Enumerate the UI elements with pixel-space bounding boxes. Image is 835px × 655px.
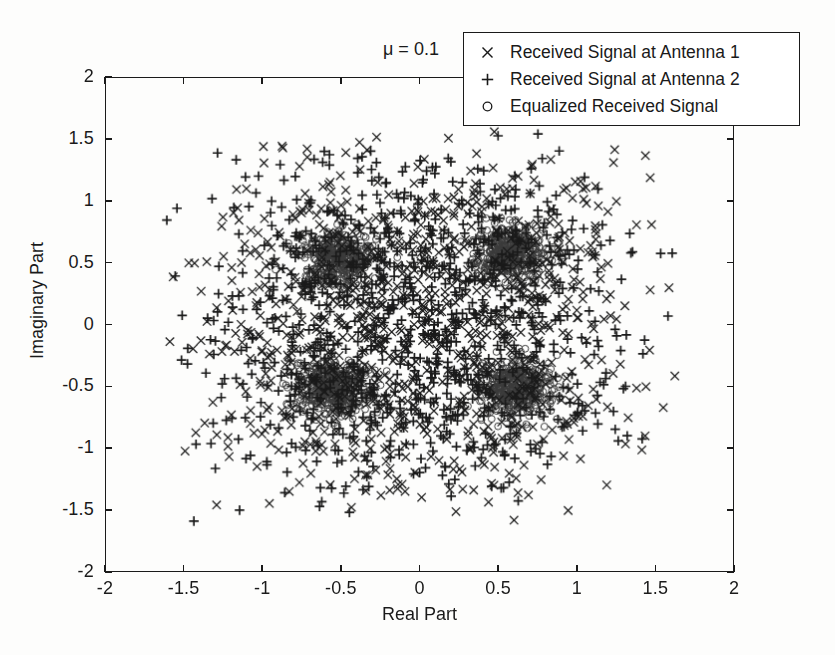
legend-box: Received Signal at Antenna 1 Received Si…	[463, 32, 800, 126]
legend-entry-antenna-2: Received Signal at Antenna 2	[464, 66, 799, 93]
y-tick-left	[105, 138, 112, 140]
x-tick-bottom	[576, 565, 578, 572]
y-tick-right	[727, 200, 734, 202]
x-tick-label: 2	[699, 578, 769, 599]
y-tick-label: -1	[36, 437, 94, 458]
y-tick-label: 2	[36, 66, 94, 87]
y-tick-left	[105, 262, 112, 264]
x-tick-bottom	[655, 565, 657, 572]
y-tick-left	[105, 386, 112, 388]
y-tick-right	[727, 447, 734, 449]
x-tick-top	[340, 77, 342, 84]
y-tick-left	[105, 509, 112, 511]
y-tick-right	[727, 509, 734, 511]
scatter-plot-canvas	[106, 78, 733, 571]
y-tick-right	[727, 138, 734, 140]
y-tick-left	[105, 447, 112, 449]
y-tick-label: 1.5	[36, 128, 94, 149]
legend-entry-equalized: Equalized Received Signal	[464, 93, 799, 120]
y-tick-left	[105, 571, 112, 573]
x-tick-top	[419, 77, 421, 84]
x-tick-label: -1.5	[149, 578, 219, 599]
legend-label-antenna-2: Received Signal at Antenna 2	[510, 69, 740, 90]
y-tick-left	[105, 324, 112, 326]
x-tick-bottom	[183, 565, 185, 572]
y-tick-label: -1.5	[36, 499, 94, 520]
x-tick-label: 0.5	[463, 578, 533, 599]
y-tick-right	[727, 571, 734, 573]
x-tick-label: 0	[385, 578, 455, 599]
circle-marker-icon	[464, 100, 510, 113]
x-tick-label: -0.5	[306, 578, 376, 599]
y-tick-right	[727, 386, 734, 388]
legend-entry-antenna-1: Received Signal at Antenna 1	[464, 39, 799, 66]
x-tick-bottom	[261, 565, 263, 572]
x-tick-top	[261, 77, 263, 84]
plot-area	[105, 77, 734, 572]
x-tick-label: 1.5	[620, 578, 690, 599]
legend-label-antenna-1: Received Signal at Antenna 1	[510, 42, 740, 63]
x-tick-top	[104, 77, 106, 84]
plus-marker-icon	[464, 73, 510, 86]
y-axis-title: Imaginary Part	[27, 181, 48, 421]
x-marker-icon	[464, 46, 510, 59]
y-tick-left	[105, 76, 112, 78]
x-tick-bottom	[497, 565, 499, 572]
x-tick-top	[183, 77, 185, 84]
x-tick-label: -1	[227, 578, 297, 599]
y-tick-right	[727, 324, 734, 326]
y-tick-label: -2	[36, 561, 94, 582]
x-tick-label: 1	[542, 578, 612, 599]
legend-label-equalized: Equalized Received Signal	[510, 96, 718, 117]
x-axis-title: Real Part	[105, 604, 734, 625]
x-tick-bottom	[419, 565, 421, 572]
y-tick-right	[727, 262, 734, 264]
x-tick-bottom	[340, 565, 342, 572]
figure-root: -2-1.5-1-0.500.511.5221.510.50-0.5-1-1.5…	[0, 0, 835, 655]
mu-annotation: μ = 0.1	[383, 39, 439, 60]
y-tick-left	[105, 200, 112, 202]
